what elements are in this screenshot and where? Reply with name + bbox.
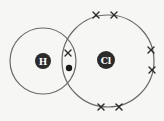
chlorine-electron-cross [116,104,122,110]
chlorine-symbol: Cl [101,56,112,66]
chlorine-electron-cross [149,67,155,73]
chlorine-nucleus: Cl [97,51,115,69]
shared-cross-electron [65,50,71,56]
diagram-svg: H Cl [0,0,164,121]
hydrogen-symbol: H [39,57,48,67]
hydrogen-nucleus: H [35,53,51,69]
hcl-dot-cross-diagram: H Cl [0,0,164,121]
shared-dot-electron [66,65,72,71]
